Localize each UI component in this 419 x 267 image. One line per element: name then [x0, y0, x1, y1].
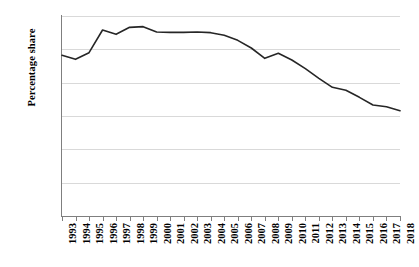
x-tick-label: 2015 — [364, 223, 375, 244]
x-axis-tick — [211, 216, 212, 221]
x-tick-label: 2007 — [256, 223, 267, 244]
x-axis-tick — [305, 216, 306, 221]
x-tick-label: 2016 — [378, 223, 389, 244]
x-axis-tick — [89, 216, 90, 221]
x-axis-tick-labels: 1993199419951996199719981999200020012002… — [0, 0, 419, 267]
line-chart: Percentage share 0%10%20%30%40%50%60% 19… — [0, 0, 419, 267]
x-axis-tick — [184, 216, 185, 221]
x-axis-tick — [400, 216, 401, 221]
x-axis-tick — [103, 216, 104, 221]
x-axis-tick — [386, 216, 387, 221]
x-tick-label: 2011 — [310, 223, 321, 243]
x-axis-tick — [62, 216, 63, 221]
x-tick-label: 1998 — [135, 223, 146, 244]
x-tick-label: 2006 — [243, 223, 254, 244]
x-tick-label: 1994 — [81, 223, 92, 244]
x-tick-label: 2012 — [324, 223, 335, 244]
x-axis-tick — [292, 216, 293, 221]
x-tick-label: 2005 — [229, 223, 240, 244]
x-axis-tick — [116, 216, 117, 221]
x-tick-label: 1997 — [121, 223, 132, 244]
x-axis-tick — [373, 216, 374, 221]
x-axis-tick — [76, 216, 77, 221]
x-tick-label: 1993 — [67, 223, 78, 244]
x-tick-label: 2003 — [202, 223, 213, 244]
x-tick-label: 1996 — [108, 223, 119, 244]
x-axis-tick — [238, 216, 239, 221]
x-tick-label: 2009 — [283, 223, 294, 244]
x-axis-tick — [265, 216, 266, 221]
x-tick-label: 2002 — [189, 223, 200, 244]
x-axis-tick — [130, 216, 131, 221]
x-axis-tick — [157, 216, 158, 221]
x-tick-label: 1995 — [94, 223, 105, 244]
x-axis-tick — [359, 216, 360, 221]
x-axis-tick — [170, 216, 171, 221]
x-axis-tick — [143, 216, 144, 221]
x-axis-tick — [332, 216, 333, 221]
x-axis-tick — [319, 216, 320, 221]
x-tick-label: 2001 — [175, 223, 186, 244]
x-axis-tick — [197, 216, 198, 221]
x-axis-tick — [224, 216, 225, 221]
x-tick-label: 2018 — [405, 223, 416, 244]
x-axis-tick — [251, 216, 252, 221]
x-axis-tick — [346, 216, 347, 221]
x-tick-label: 2017 — [391, 223, 402, 244]
x-axis-tick — [278, 216, 279, 221]
x-tick-label: 2010 — [297, 223, 308, 244]
x-tick-label: 2008 — [270, 223, 281, 244]
x-tick-label: 1999 — [148, 223, 159, 244]
x-tick-label: 2000 — [162, 223, 173, 244]
x-tick-label: 2004 — [216, 223, 227, 244]
x-tick-label: 2014 — [351, 223, 362, 244]
x-tick-label: 2013 — [337, 223, 348, 244]
